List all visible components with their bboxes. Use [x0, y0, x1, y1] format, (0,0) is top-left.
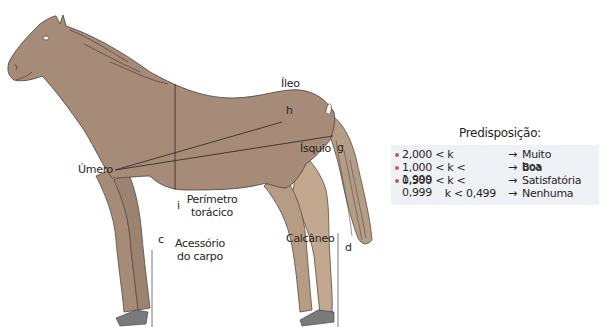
- legend-result: Satisfatória: [522, 175, 581, 187]
- label-isquio: Ísquio: [300, 142, 331, 155]
- legend-result: Boa: [522, 162, 542, 174]
- label-c: c: [158, 233, 164, 246]
- horse-eye: [43, 36, 49, 40]
- label-calcaneo: Calcâneo: [286, 232, 334, 245]
- arrow-right-icon: →: [508, 149, 517, 161]
- legend-title: Predisposição:: [459, 126, 541, 140]
- label-perimetro-line2: torácico: [186, 206, 238, 219]
- label-umero: Úmero: [78, 163, 113, 176]
- legend-condition: k < 0,499: [402, 188, 496, 200]
- legend-condition: 2,000 < k: [402, 149, 496, 161]
- arrow-right-icon: →: [508, 162, 517, 174]
- label-acessorio-do-carpo: Acessório do carpo: [174, 237, 226, 263]
- hoof-front: [116, 310, 148, 326]
- label-g: g: [337, 141, 344, 154]
- hoof-hind: [300, 310, 334, 326]
- bullet-icon: [395, 153, 399, 157]
- label-perimetro-toracico: Perímetro torácico: [186, 193, 238, 219]
- arrow-right-icon: →: [508, 175, 517, 187]
- arrow-right-icon: →: [508, 188, 517, 200]
- bullet-icon: [395, 166, 399, 170]
- legend-box: 2,000 < k → Muito boa 1,000 < k < 1,999 …: [391, 145, 599, 205]
- label-i: i: [177, 199, 180, 212]
- label-h: h: [286, 104, 293, 117]
- bullet-icon: [395, 179, 399, 183]
- horse-body: [8, 15, 335, 190]
- label-acessorio-line1: Acessório: [174, 237, 226, 250]
- label-perimetro-line1: Perímetro: [186, 193, 238, 206]
- label-acessorio-line2: do carpo: [174, 250, 226, 263]
- label-d: d: [345, 241, 352, 254]
- label-ileo: Íleo: [281, 77, 300, 90]
- legend-result: Nenhuma: [522, 188, 573, 200]
